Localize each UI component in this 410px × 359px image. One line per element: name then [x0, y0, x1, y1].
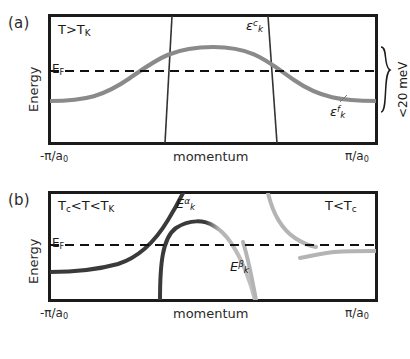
panel-b-temperature-right: T<Tc — [325, 198, 357, 214]
tick-b-right-sub: 0 — [364, 311, 369, 321]
x-tick-left-a: -π/a0 — [40, 149, 68, 164]
ef-b-symbol: E — [52, 236, 60, 250]
tick-a-right-sub: 0 — [364, 154, 369, 164]
e-alpha-symbol: E — [176, 196, 184, 211]
ef-a-symbol: E — [52, 62, 60, 76]
tick-a-left-sub: 0 — [63, 154, 68, 164]
tick-a-right-main: π/a — [345, 149, 364, 163]
e-alpha-sub: k — [190, 202, 195, 212]
figure-root: (a) T>TK εck — [0, 0, 410, 359]
x-tick-left-b: -π/a0 — [40, 306, 68, 321]
tick-a-left-main: -π/a — [40, 149, 63, 163]
x-tick-right-a: π/a0 — [345, 149, 369, 164]
eps-f-sub: k — [340, 110, 345, 120]
eps-f-symbol: ε — [330, 104, 337, 119]
y-axis-label-b: Energy — [26, 238, 41, 284]
fermi-level-label-b: EF — [52, 236, 64, 251]
ef-b-sub: F — [60, 241, 65, 251]
temp-b2-main: T<T — [325, 198, 352, 213]
conduction-band-right-branch — [268, 16, 277, 143]
e-beta-sub: k — [244, 265, 249, 275]
ef-a-sub: F — [60, 67, 65, 77]
y-axis-label-a: Energy — [26, 66, 41, 112]
eps-c-symbol: ε — [246, 18, 253, 33]
x-axis-label-a: momentum — [173, 149, 249, 164]
e-beta-symbol: E — [230, 259, 238, 274]
beta-band-label: Eβk — [230, 259, 249, 275]
temp-b-rest: <T<T — [71, 198, 109, 213]
fermi-level-label-a: EF — [52, 62, 64, 77]
temp-a-sub: K — [85, 28, 91, 38]
conduction-band-left-branch — [165, 16, 172, 143]
alpha-band-label: Eαk — [176, 196, 195, 212]
tick-b-left-main: -π/a — [40, 306, 63, 320]
bandwidth-brace — [381, 47, 390, 112]
temp-a-main: T>T — [58, 22, 85, 37]
temp-b-main: T — [58, 198, 66, 213]
bandwidth-annotation: <20 meV — [396, 62, 410, 118]
panel-b: (b) — [0, 180, 410, 359]
conduction-band-label: εck — [246, 18, 263, 34]
tick-b-left-sub: 0 — [63, 311, 68, 321]
beta-band-upper-right — [268, 193, 316, 247]
temp-b-sub2: K — [108, 204, 114, 214]
tick-b-right-main: π/a — [345, 306, 364, 320]
panel-b-temperature-left: Tc<T<TK — [58, 198, 114, 214]
temp-b2-sub: c — [352, 204, 357, 214]
f-band-curve — [50, 47, 376, 101]
panel-a-temperature-label: T>TK — [58, 22, 91, 38]
eps-c-sub: k — [258, 24, 263, 34]
f-band-label: εfk — [330, 104, 345, 120]
x-axis-label-b: momentum — [173, 306, 249, 321]
beta-band-lower-right — [300, 251, 376, 258]
panel-a: (a) T>TK εck — [0, 0, 410, 180]
x-tick-right-b: π/a0 — [345, 306, 369, 321]
